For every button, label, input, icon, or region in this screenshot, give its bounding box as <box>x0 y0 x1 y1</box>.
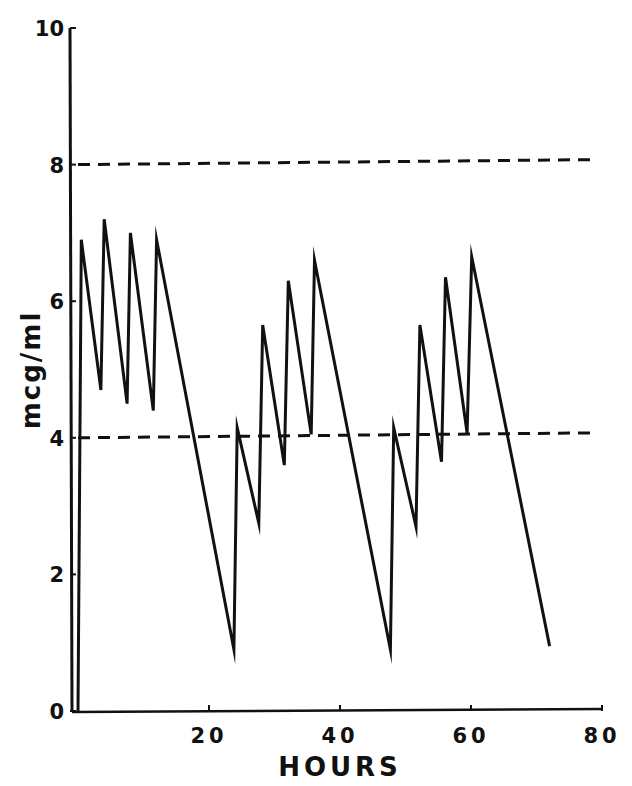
y-tick-label: 4 <box>49 427 64 451</box>
y-tick-label: 8 <box>49 154 64 178</box>
x-tick-label: 20 <box>190 724 227 748</box>
x-axis-line <box>72 709 602 712</box>
x-axis: 20406080 <box>72 705 621 748</box>
reference-line <box>78 160 598 165</box>
y-tick-label: 10 <box>35 17 64 41</box>
reference-line <box>78 433 598 438</box>
data-series <box>78 219 550 711</box>
x-tick-label: 80 <box>583 724 620 748</box>
y-tick-label: 0 <box>49 700 64 724</box>
series-line <box>78 219 550 711</box>
x-axis-title: HOURS <box>278 752 402 782</box>
x-tick-label: 40 <box>321 724 358 748</box>
x-tick-label: 60 <box>452 724 489 748</box>
chart: 0246810 20406080 HOURS mcg/ml <box>0 0 632 786</box>
y-tick-label: 6 <box>49 290 64 314</box>
y-tick-label: 2 <box>49 563 64 587</box>
y-axis-line <box>70 28 72 711</box>
y-axis-title: mcg/ml <box>16 311 46 430</box>
